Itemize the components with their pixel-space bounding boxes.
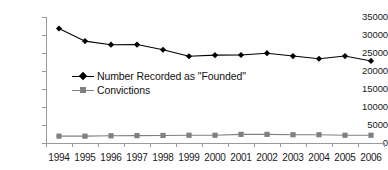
square-marker-icon xyxy=(186,133,191,138)
chart-legend: Number Recorded as "Founded" Convictions xyxy=(72,69,246,97)
series-convictions xyxy=(56,132,373,139)
square-marker-icon xyxy=(212,133,217,138)
diamond-marker-icon xyxy=(72,70,94,82)
diamond-marker-icon xyxy=(134,41,140,47)
square-marker-icon xyxy=(160,133,165,138)
line-chart: 05000100001500020000250003000035000 1994… xyxy=(0,0,388,170)
diamond-marker-icon xyxy=(264,50,270,56)
square-marker-icon xyxy=(134,133,139,138)
legend-label-convictions: Convictions xyxy=(97,84,150,96)
series-founded xyxy=(56,25,374,64)
square-marker-icon xyxy=(368,133,373,138)
diamond-marker-icon xyxy=(160,47,166,53)
square-marker-icon xyxy=(56,134,61,139)
square-marker-icon xyxy=(108,133,113,138)
diamond-marker-icon xyxy=(316,56,322,62)
square-marker-icon xyxy=(82,134,87,139)
square-marker-icon xyxy=(72,84,94,96)
legend-item-founded: Number Recorded as "Founded" xyxy=(72,69,246,83)
square-marker-icon xyxy=(316,132,321,137)
square-marker-icon xyxy=(290,132,295,137)
square-marker-icon xyxy=(238,132,243,137)
diamond-marker-icon xyxy=(238,52,244,58)
diamond-marker-icon xyxy=(108,42,114,48)
diamond-marker-icon xyxy=(82,38,88,44)
diamond-marker-icon xyxy=(212,52,218,58)
square-marker-icon xyxy=(342,133,347,138)
diamond-marker-icon xyxy=(186,53,192,59)
legend-item-convictions: Convictions xyxy=(72,83,246,97)
diamond-marker-icon xyxy=(342,53,348,59)
legend-label-founded: Number Recorded as "Founded" xyxy=(97,70,246,82)
square-marker-icon xyxy=(264,132,269,137)
diamond-marker-icon xyxy=(290,53,296,59)
diamond-marker-icon xyxy=(56,25,62,31)
diamond-marker-icon xyxy=(368,58,374,64)
